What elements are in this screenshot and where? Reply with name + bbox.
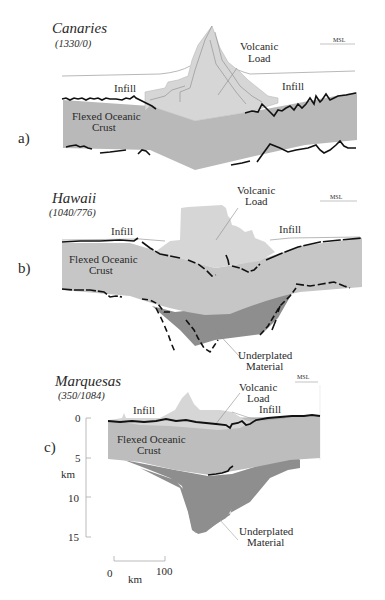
panel-subtitle: (1330/0) [55,38,92,50]
scale-bar: 0 100 km [107,556,173,585]
crustal-cross-sections-figure: MSL Canaries (1330/0) a) Volcanic Load I… [0,0,385,600]
panel-subtitle: (350/1084) [58,390,105,402]
panel-a-canaries: MSL Canaries (1330/0) a) Volcanic Load I… [18,20,357,170]
panel-title: Canaries [52,20,107,36]
seismic-moho-reflector [231,161,250,165]
crust-label: Crust [89,264,113,276]
depth-tick-label: 15 [68,531,80,543]
panel-title: Hawaii [51,190,96,206]
depth-tick-label: 0 [75,412,81,424]
volcanic-load-label: Volcanic [240,40,278,52]
msl-label: MSL [333,37,346,43]
volcanic-load-label: Load [248,52,271,64]
seismic-moho-reflector [138,150,150,155]
msl-label: MSL [330,194,343,200]
infill-label-right: Infill [259,403,281,415]
scale-bar-end: 100 [156,565,173,577]
scale-bar-start: 0 [107,567,113,579]
crust-label: Crust [92,121,116,133]
panel-b-hawaii: MSL Hawaii (1040/776) b) Volcanic Load I… [18,184,362,372]
seismic-moho-reflector [100,150,126,153]
infill-label-right: Infill [282,80,304,92]
underplated-label: Material [246,360,283,372]
panel-c-marquesas: MSL 0 5 10 15 km 0 100 km Marquesas (350… [44,373,320,585]
underplated-label: Material [247,536,284,548]
infill-label-right: Infill [279,223,301,235]
panel-label: a) [18,130,30,147]
crust-label: Crust [137,444,161,456]
volcanic-load-label: Load [245,195,268,207]
depth-axis: 0 5 10 15 km [61,412,91,543]
infill-label-left: Infill [133,404,155,416]
infill-label-left: Infill [114,82,136,94]
panel-label: c) [44,439,56,456]
depth-axis-unit: km [61,468,76,480]
panel-title: Marquesas [54,373,121,389]
infill-label-left: Infill [111,225,133,237]
msl-label: MSL [297,374,310,380]
panel-label: b) [18,260,31,277]
underplated-leader [220,520,238,540]
depth-tick-label: 5 [75,452,81,464]
depth-tick-label: 10 [68,492,80,504]
scale-bar-unit: km [128,573,143,585]
panel-subtitle: (1040/776) [49,207,96,219]
